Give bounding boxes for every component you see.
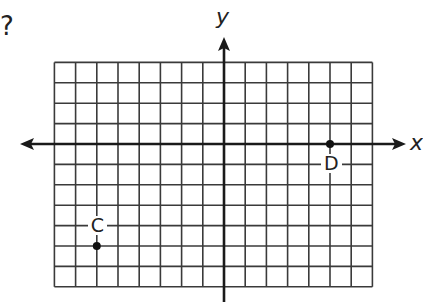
point-label-c: C (88, 216, 107, 235)
y-axis-label: y (216, 6, 229, 28)
x-axis-label: x (410, 132, 423, 154)
point-c-dot (93, 242, 101, 250)
point-label-d: D (321, 154, 342, 173)
point-d-dot (326, 140, 334, 148)
